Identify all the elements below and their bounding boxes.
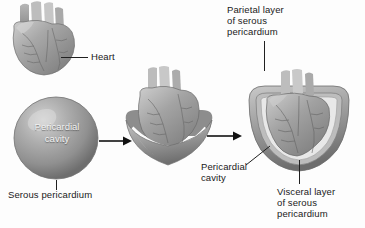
label-serous-pericardium: Serous pericardium: [8, 189, 92, 200]
stage-heart-invaginating-sac: [120, 66, 218, 176]
stage-heart-alone: [4, 0, 88, 80]
leader-line-parietal-layer: [264, 41, 265, 71]
label-visceral-layer: Visceral layer of serous pericardium: [277, 186, 335, 219]
pericardium-development-figure: Heart Pericardial cavity Serous pericard…: [0, 0, 365, 228]
label-pericardial-cavity-sphere: Pericardial cavity: [22, 121, 92, 144]
heart-in-sac-illustration: [120, 66, 218, 176]
label-heart: Heart: [91, 51, 115, 62]
arrow-2-icon: [207, 130, 243, 142]
leader-line-pericardial-cavity-final: [246, 146, 271, 166]
heart-illustration-1: [4, 0, 88, 80]
leader-line-visceral-layer: [299, 160, 300, 184]
leader-line-heart: [61, 57, 88, 58]
heart-body-2: [138, 86, 199, 147]
label-pericardial-cavity-final: Pericardial cavity: [201, 161, 247, 183]
label-parietal-layer: Parietal layer of serous pericardium: [227, 4, 284, 37]
